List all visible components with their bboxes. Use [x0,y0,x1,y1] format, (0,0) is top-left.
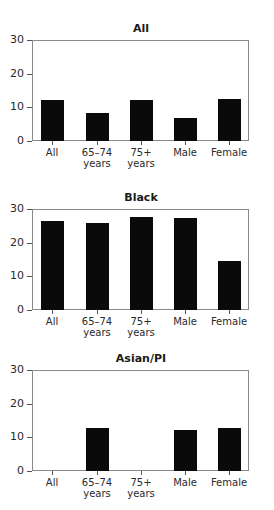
x-tick [52,141,53,145]
y-tick [27,209,32,210]
bar-male [174,118,197,141]
y-tick [27,471,32,472]
bar-male [174,430,197,471]
y-tick-label: 0 [0,465,24,477]
y-tick [27,107,32,108]
x-tick-label: All [30,316,74,327]
y-tick-label: 20 [0,68,24,80]
x-tick-label: 75+ [119,316,163,327]
y-tick-label: 20 [0,398,24,410]
x-tick-label: 65–74 [75,147,119,158]
x-tick-label: 65–74 [75,316,119,327]
bar-75-years [130,217,153,310]
x-tick-label: Female [207,316,251,327]
bar-all [41,221,64,310]
x-tick [97,141,98,145]
bar-65-74-years [86,113,109,141]
x-tick-label: years [119,158,163,169]
bar-65-74-years [86,428,109,471]
x-tick-label: Male [163,477,207,488]
y-tick [27,74,32,75]
x-tick [141,141,142,145]
chart-panel-all: All0102030All65–74years75+yearsMaleFemal… [0,22,274,187]
x-tick [141,471,142,475]
chart-title: Asian/PI [32,352,250,365]
bar-all [41,100,64,141]
y-tick-label: 30 [0,364,24,376]
x-tick-label: All [30,147,74,158]
x-tick [97,471,98,475]
y-tick [27,40,32,41]
x-tick [185,310,186,314]
x-tick [185,141,186,145]
bar-75-years [130,100,153,141]
x-tick [229,310,230,314]
y-tick-label: 20 [0,237,24,249]
x-tick [185,471,186,475]
x-tick [52,310,53,314]
x-tick-label: years [75,488,119,499]
x-tick-label: years [119,327,163,338]
y-tick [27,310,32,311]
y-tick [27,370,32,371]
x-tick-label: 75+ [119,147,163,158]
x-tick [229,471,230,475]
x-tick-label: 65–74 [75,477,119,488]
bar-female [218,428,241,471]
y-tick-label: 0 [0,135,24,147]
y-tick [27,276,32,277]
y-tick-label: 0 [0,304,24,316]
chart-panel-asian-pi: Asian/PI0102030All65–74years75+yearsMale… [0,352,274,510]
bar-female [218,261,241,310]
x-tick-label: Female [207,477,251,488]
y-tick [27,141,32,142]
bar-female [218,99,241,141]
y-tick-label: 10 [0,431,24,443]
plot-frame [32,370,249,471]
x-tick-label: years [75,327,119,338]
x-tick-label: years [75,158,119,169]
x-tick [97,310,98,314]
bar-65-74-years [86,223,109,310]
x-tick-label: Male [163,316,207,327]
chart-title: All [32,22,250,35]
y-tick-label: 30 [0,34,24,46]
x-tick [141,310,142,314]
x-tick-label: years [119,488,163,499]
y-tick-label: 10 [0,101,24,113]
x-tick-label: Female [207,147,251,158]
x-tick [52,471,53,475]
x-tick-label: All [30,477,74,488]
y-tick-label: 30 [0,203,24,215]
x-tick [229,141,230,145]
y-tick-label: 10 [0,270,24,282]
y-tick [27,437,32,438]
x-tick-label: Male [163,147,207,158]
bar-male [174,218,197,310]
chart-title: Black [32,191,250,204]
y-tick [27,243,32,244]
y-tick [27,404,32,405]
x-tick-label: 75+ [119,477,163,488]
chart-panel-black: Black0102030All65–74years75+yearsMaleFem… [0,191,274,356]
